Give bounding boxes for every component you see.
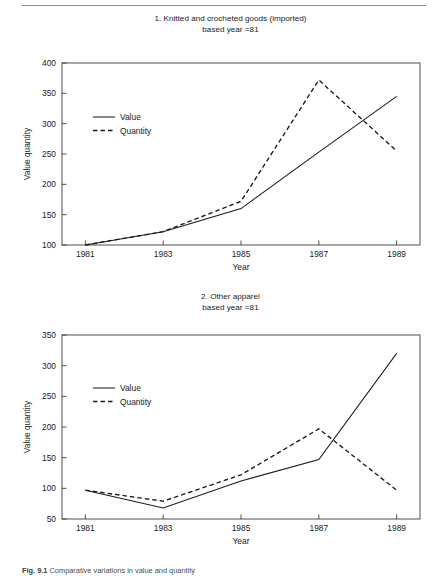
y-tick-label: 250 bbox=[42, 149, 56, 159]
chart-panel-1: 1. Knitted and crocheted goods (imported… bbox=[0, 14, 443, 290]
y-axis-label: Value quantity bbox=[22, 400, 32, 453]
y-tick-label: 300 bbox=[42, 119, 56, 129]
x-tick-label: 1989 bbox=[387, 523, 406, 533]
y-tick-label: 200 bbox=[42, 422, 56, 432]
figure-caption-label: Fig. 9.1 bbox=[22, 566, 47, 575]
chart-1-title: 1. Knitted and crocheted goods (imported… bbox=[0, 14, 443, 35]
y-tick-label: 100 bbox=[42, 483, 56, 493]
plot-frame bbox=[62, 63, 420, 245]
x-tick-label: 1983 bbox=[154, 249, 173, 259]
x-tick-label: 1989 bbox=[387, 249, 406, 259]
y-tick-label: 250 bbox=[42, 391, 56, 401]
figure-caption-text: Comparative variations in value and quan… bbox=[50, 566, 195, 575]
top-horizontal-rule bbox=[22, 5, 426, 6]
chart-2-svg: 5010015020025030035019811983198519871989… bbox=[0, 313, 443, 555]
chart-1-svg: 1001502002503003504001981198319851987198… bbox=[0, 35, 443, 281]
y-tick-label: 150 bbox=[42, 453, 56, 463]
chart-2-title-line1: 2. Other apparel bbox=[201, 292, 260, 301]
chart-1-title-line2: based year =81 bbox=[18, 25, 443, 36]
y-tick-label: 50 bbox=[47, 514, 57, 524]
series-line-value bbox=[85, 353, 396, 508]
x-tick-label: 1981 bbox=[76, 249, 95, 259]
x-tick-label: 1987 bbox=[310, 249, 329, 259]
y-tick-label: 400 bbox=[42, 58, 56, 68]
y-tick-label: 300 bbox=[42, 361, 56, 371]
y-tick-label: 350 bbox=[42, 330, 56, 340]
x-tick-label: 1985 bbox=[232, 523, 251, 533]
series-line-quantity bbox=[85, 80, 396, 245]
chart-2-title-line2: based year =81 bbox=[18, 303, 443, 314]
y-tick-label: 150 bbox=[42, 210, 56, 220]
figure-page: 1. Knitted and crocheted goods (imported… bbox=[0, 0, 443, 580]
y-tick-label: 200 bbox=[42, 179, 56, 189]
chart-2-title: 2. Other apparel based year =81 bbox=[0, 292, 443, 313]
chart-1-title-line1: 1. Knitted and crocheted goods (imported… bbox=[155, 14, 307, 23]
x-tick-label: 1983 bbox=[154, 523, 173, 533]
chart-2-plot-area: 5010015020025030035019811983198519871989… bbox=[0, 313, 443, 555]
x-axis-label: Year bbox=[233, 536, 250, 546]
x-tick-label: 1981 bbox=[76, 523, 95, 533]
legend-label-value: Value bbox=[120, 383, 141, 393]
x-axis-label: Year bbox=[233, 262, 250, 272]
chart-panel-2: 2. Other apparel based year =81 50100150… bbox=[0, 292, 443, 562]
legend-label-value: Value bbox=[120, 112, 141, 122]
legend-label-quantity: Quantity bbox=[120, 397, 152, 407]
figure-caption: Fig. 9.1 Comparative variations in value… bbox=[22, 566, 426, 576]
legend-label-quantity: Quantity bbox=[120, 126, 152, 136]
series-line-quantity bbox=[85, 429, 396, 501]
plot-frame bbox=[62, 335, 420, 519]
y-tick-label: 350 bbox=[42, 88, 56, 98]
chart-1-plot-area: 1001502002503003504001981198319851987198… bbox=[0, 35, 443, 281]
y-axis-label: Value quantity bbox=[22, 127, 32, 180]
x-tick-label: 1987 bbox=[310, 523, 329, 533]
x-tick-label: 1985 bbox=[232, 249, 251, 259]
y-tick-label: 100 bbox=[42, 240, 56, 250]
